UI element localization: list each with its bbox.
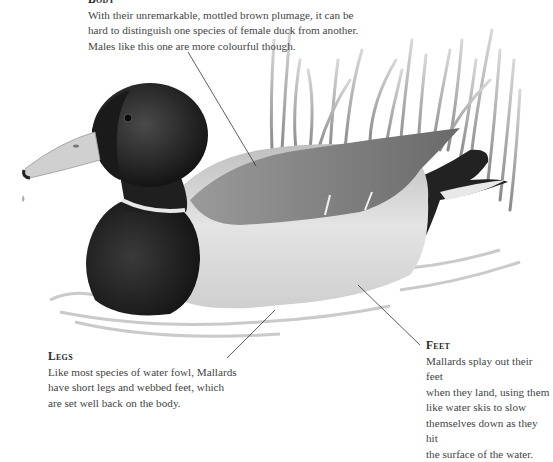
caption-text-line: when they land, using them xyxy=(426,385,551,401)
water-drop xyxy=(22,195,25,202)
caption-text-line: Mallards splay out their feet xyxy=(426,354,551,385)
duck-eye xyxy=(124,114,132,122)
caption-text-line: Like most species of water fowl, Mallard… xyxy=(48,365,248,381)
caption-text-line: like water skis to slow xyxy=(426,400,551,416)
caption-text-line: hard to distinguish one species of femal… xyxy=(88,23,378,39)
caption-body: Body With their unremarkable, mottled br… xyxy=(88,0,378,54)
caption-heading: Body xyxy=(88,0,378,8)
caption-legs: Legs Like most species of water fowl, Ma… xyxy=(48,349,248,411)
caption-text-line: themselves down as they hit xyxy=(426,416,551,447)
caption-text-line: have short legs and webbed feet, which xyxy=(48,380,248,396)
caption-text-line: are set well back on the body. xyxy=(48,396,248,412)
leader-line-feet xyxy=(358,285,420,345)
caption-text-line: the surface of the water. xyxy=(426,447,551,462)
caption-heading: Feet xyxy=(426,338,551,354)
caption-text-line: With their unremarkable, mottled brown p… xyxy=(88,8,378,24)
duck-bill xyxy=(24,132,100,178)
duck-breast xyxy=(86,198,200,315)
caption-text-line: Males like this one are more colourful t… xyxy=(88,39,378,55)
caption-heading: Legs xyxy=(48,349,248,365)
caption-feet: Feet Mallards splay out their feet when … xyxy=(426,338,551,462)
